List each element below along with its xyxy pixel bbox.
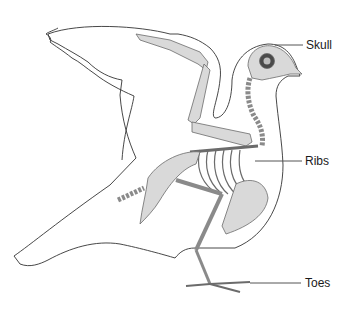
ribs-label: Ribs bbox=[305, 154, 329, 168]
skull-label: Skull bbox=[306, 38, 332, 52]
toe-bones bbox=[186, 282, 250, 292]
bird-skeleton-illustration bbox=[0, 0, 353, 315]
toes-label: Toes bbox=[305, 276, 330, 290]
tarsus-bone bbox=[196, 250, 210, 284]
